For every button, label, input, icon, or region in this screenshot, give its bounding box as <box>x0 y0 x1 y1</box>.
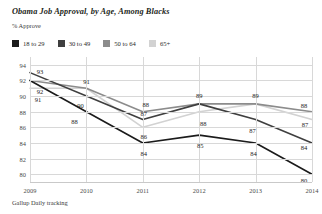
data-point-label-6: 88 <box>143 100 150 107</box>
x-tick-label-2014: 2014 <box>306 187 319 194</box>
x-axis-line <box>30 182 312 183</box>
y-tick-label-94: 94 <box>20 61 26 68</box>
data-point-label-14: 87 <box>249 126 256 133</box>
legend-swatch-30-to-49 <box>58 40 65 47</box>
data-point-label-10: 89 <box>196 91 203 98</box>
data-point-label-5: 88 <box>71 117 78 124</box>
chart-legend: 18 to 2930 to 4950 to 6465+ <box>12 37 183 49</box>
y-tick-label-80: 80 <box>20 171 26 178</box>
data-point-label-2: 91 <box>35 96 42 103</box>
gridline-y-94 <box>30 65 312 66</box>
gridline-x-2010 <box>86 57 87 182</box>
y-tick-label-86: 86 <box>20 124 26 131</box>
legend-label-3: 65+ <box>160 40 170 47</box>
y-tick-label-92: 92 <box>20 77 26 84</box>
source-note: Gallup Daily tracking <box>12 199 68 206</box>
data-point-label-8: 86 <box>141 133 148 140</box>
y-tick-label-82: 82 <box>20 155 26 162</box>
legend-swatch-50-to-64 <box>103 40 110 47</box>
gridline-y-80 <box>30 174 312 175</box>
chart-subtitle: % Approve <box>12 22 41 29</box>
data-point-label-11: 88 <box>200 119 207 126</box>
gridline-x-2013 <box>256 57 257 182</box>
data-point-label-16: 88 <box>301 101 308 108</box>
y-tick-label-84: 84 <box>20 139 26 146</box>
x-tick-label-2012: 2012 <box>193 187 206 194</box>
gridline-x-2011 <box>143 57 144 182</box>
legend-item-0[interactable]: 18 to 29 <box>12 40 45 47</box>
legend-label-1: 30 to 49 <box>69 40 91 47</box>
gridline-y-84 <box>30 143 312 144</box>
gridline-y-88 <box>30 112 312 113</box>
data-point-label-13: 89 <box>252 91 259 98</box>
legend-swatch-65-plus <box>149 40 156 47</box>
gridline-y-92 <box>30 80 312 81</box>
legend-item-3[interactable]: 65+ <box>149 40 170 47</box>
gridline-y-90 <box>30 96 312 97</box>
legend-label-0: 18 to 29 <box>23 40 45 47</box>
legend-item-1[interactable]: 30 to 49 <box>58 40 91 47</box>
y-tick-label-88: 88 <box>20 108 26 115</box>
x-tick-label-2013: 2013 <box>249 187 262 194</box>
data-point-label-17: 87 <box>302 120 309 127</box>
x-tick-label-2009: 2009 <box>24 187 37 194</box>
data-point-label-15: 84 <box>250 149 257 156</box>
y-tick-label-90: 90 <box>20 93 26 100</box>
data-point-label-9: 84 <box>141 149 148 156</box>
gridline-x-2014 <box>312 57 313 182</box>
data-point-label-18: 84 <box>301 143 308 150</box>
x-tick-label-2010: 2010 <box>80 187 93 194</box>
x-axis: 200920102011201220132014 <box>30 182 312 198</box>
data-point-label-7: 87 <box>141 109 148 116</box>
data-point-label-0: 93 <box>37 67 44 74</box>
legend-swatch-18-to-29 <box>12 40 19 47</box>
plot-area: 8082848688909294939291919088888786848988… <box>30 57 312 182</box>
data-point-label-4: 90 <box>77 102 84 109</box>
data-point-label-1: 92 <box>37 88 44 95</box>
gridline-x-2009 <box>30 57 31 182</box>
gridline-y-82 <box>30 159 312 160</box>
x-tick-label-2011: 2011 <box>137 187 150 194</box>
chart-figure: Obama Job Approval, by Age, Among Blacks… <box>0 0 322 214</box>
data-point-label-3: 91 <box>83 78 90 85</box>
legend-label-2: 50 to 64 <box>114 40 136 47</box>
page-title: Obama Job Approval, by Age, Among Blacks <box>12 7 170 16</box>
legend-item-2[interactable]: 50 to 64 <box>103 40 136 47</box>
data-point-label-12: 85 <box>197 142 204 149</box>
gridline-y-86 <box>30 127 312 128</box>
